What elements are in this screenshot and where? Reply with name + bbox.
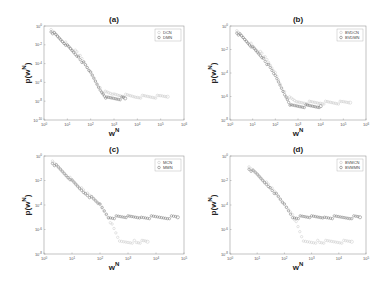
panel-d: (d)10010110210310410510010-210-410-610-8… (207, 145, 369, 272)
x-tick-label: 104 (336, 256, 342, 262)
y-axis-label: p(wN) (207, 62, 218, 83)
x-tick-label: 104 (153, 256, 159, 262)
panel-title: (a) (109, 15, 119, 24)
y-tick-label: 10-2 (221, 47, 228, 53)
x-axis-label: wN (108, 127, 120, 138)
x-tick-label: 102 (88, 122, 94, 128)
legend: BVDCNBVDMN (337, 29, 363, 41)
x-tick-label: 101 (64, 122, 70, 128)
x-tick-label: 100 (41, 122, 47, 128)
x-tick-label: 101 (254, 256, 260, 262)
x-tick-label: 104 (134, 122, 140, 128)
y-tick-label: 100 (222, 153, 228, 159)
panel-b: (b)10010110210310410510610010-210-410-61… (207, 15, 369, 138)
y-tick-label: 10-6 (221, 94, 228, 100)
y-tick-label: 100 (222, 23, 228, 29)
y-tick-label: 10-6 (35, 227, 42, 233)
y-tick-label: 10-4 (35, 202, 42, 208)
x-tick-label: 105 (181, 256, 187, 262)
legend: DCNDMN (155, 29, 181, 41)
x-tick-label: 106 (363, 122, 369, 128)
y-tick-label: 10-8 (35, 98, 42, 104)
x-tick-label: 103 (309, 256, 315, 262)
legend-label: MMN (163, 165, 173, 170)
y-tick-label: 10-4 (221, 70, 228, 76)
x-axis-label: wN (108, 261, 120, 272)
y-tick-label: 10-2 (35, 178, 42, 184)
panel-title: (c) (109, 145, 119, 154)
legend-label: DMN (163, 35, 172, 40)
x-tick-label: 104 (318, 122, 324, 128)
y-tick-label: 10-2 (35, 42, 42, 48)
y-tick-label: 10-4 (221, 202, 228, 208)
panel-c: (c)10010110210310410510010-210-410-610-8… (21, 145, 187, 272)
legend: BVMCNBVMMN (337, 159, 363, 171)
y-tick-label: 10-6 (221, 227, 228, 233)
panel-title: (d) (293, 145, 304, 154)
x-axis-label: wN (292, 261, 304, 272)
panel-title: (b) (293, 15, 304, 24)
x-tick-label: 105 (158, 122, 164, 128)
x-tick-label: 103 (125, 256, 131, 262)
x-tick-label: 100 (227, 122, 233, 128)
x-tick-label: 101 (69, 256, 75, 262)
y-axis-label: p(wN) (21, 62, 32, 83)
x-tick-label: 101 (250, 122, 256, 128)
x-tick-label: 105 (363, 256, 369, 262)
figure: (a)10010110210310410510610010-210-410-61… (0, 0, 388, 284)
x-axis-label: wN (292, 127, 304, 138)
y-axis-label: p(wN) (21, 194, 32, 215)
y-tick-label: 100 (36, 23, 42, 29)
x-tick-label: 106 (181, 122, 187, 128)
panel-a: (a)10010110210310410510610010-210-410-61… (21, 15, 187, 138)
x-tick-label: 102 (272, 122, 278, 128)
x-tick-label: 102 (281, 256, 287, 262)
x-tick-label: 100 (41, 256, 47, 262)
y-tick-label: 10-6 (35, 79, 42, 85)
y-tick-label: 10-4 (35, 61, 42, 67)
y-tick-label: 10-2 (221, 178, 228, 184)
y-axis-label: p(wN) (207, 194, 218, 215)
legend: MCNMMN (155, 159, 181, 171)
x-tick-label: 105 (340, 122, 346, 128)
legend-label: BVDMN (345, 35, 360, 40)
legend-label: BVMMN (345, 165, 360, 170)
y-tick-label: 100 (36, 153, 42, 159)
x-tick-label: 100 (227, 256, 233, 262)
x-tick-label: 102 (97, 256, 103, 262)
